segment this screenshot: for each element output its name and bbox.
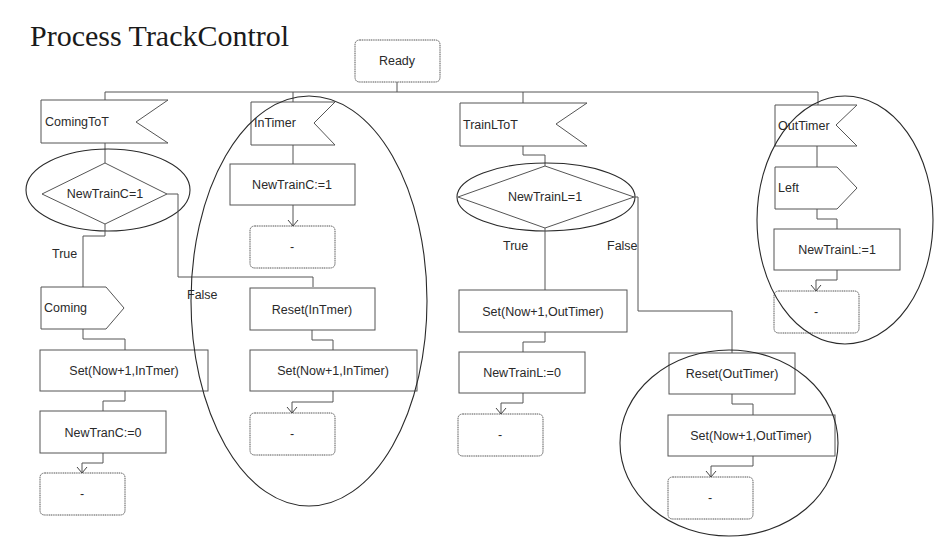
true-label-c: True <box>52 247 77 261</box>
transition-bus <box>105 82 818 105</box>
state-next-l-true-label: - <box>498 428 502 442</box>
connector <box>732 394 753 415</box>
state-next-outtimer[interactable]: - <box>774 291 859 333</box>
task-newtranc-0[interactable]: NewTranC:=0 <box>40 411 166 453</box>
input-intimer-label: InTimer <box>254 116 296 130</box>
task-reset-intmer[interactable]: Reset(InTmer) <box>250 288 375 330</box>
decision-newtrainl-label: NewTrainL=1 <box>508 190 582 204</box>
state-next-reset-in-label: - <box>290 427 294 441</box>
task-newtrainl-0[interactable]: NewTrainL:=0 <box>459 352 585 393</box>
decision-newtrainc-label: NewTrainC=1 <box>67 187 143 201</box>
input-comingtot-label: ComingToT <box>45 115 109 129</box>
task-set-intimer-label: Set(Now+1,InTimer) <box>277 364 389 378</box>
state-next-l-false-label: - <box>708 491 712 505</box>
task-newtranc-0-label: NewTranC:=0 <box>65 426 142 440</box>
process-title: Process TrackControl <box>30 19 289 52</box>
false-label-l: False <box>607 239 638 253</box>
state-ready[interactable]: Ready <box>355 40 440 82</box>
input-intimer[interactable]: InTimer <box>251 102 335 145</box>
output-coming[interactable]: Coming <box>41 287 124 329</box>
state-next-outtimer-label: - <box>814 305 818 319</box>
task-reset-outtimer-label: Reset(OutTimer) <box>686 367 779 381</box>
task-newtrainl-1[interactable]: NewTrainL:=1 <box>774 229 900 270</box>
state-next-l-true[interactable]: - <box>458 414 543 456</box>
output-left[interactable]: Left <box>775 167 857 209</box>
task-newtrainl-0-label: NewTrainL:=0 <box>483 366 561 380</box>
input-comingtot[interactable]: ComingToT <box>41 100 168 143</box>
connector <box>817 209 837 229</box>
state-next-l-false[interactable]: - <box>668 477 753 519</box>
connector-true <box>83 224 105 287</box>
input-trainltot-label: TrainLToT <box>463 118 518 132</box>
state-ready-label: Ready <box>379 54 416 68</box>
output-left-label: Left <box>778 181 799 195</box>
task-reset-intmer-label: Reset(InTmer) <box>272 303 353 317</box>
state-next-intimer[interactable]: - <box>250 226 335 268</box>
state-next-c[interactable]: - <box>40 473 125 515</box>
connector <box>103 391 125 411</box>
task-set-outtimer-true[interactable]: Set(Now+1,OutTimer) <box>459 290 627 332</box>
input-trainltot[interactable]: TrainLToT <box>460 103 587 146</box>
task-set-intimer[interactable]: Set(Now+1,InTimer) <box>250 350 417 391</box>
connector <box>711 456 753 477</box>
decision-newtrainl[interactable]: NewTrainL=1 <box>458 166 634 228</box>
connector <box>501 393 523 414</box>
input-outtimer-label: OutTimer <box>778 119 830 133</box>
true-label-l: True <box>503 239 528 253</box>
connector <box>312 330 333 350</box>
task-newtrainc-1[interactable]: NewTrainC:=1 <box>230 164 355 205</box>
sdl-process-diagram: Process TrackControl Ready ComingToT New… <box>0 0 938 557</box>
connector <box>292 391 333 413</box>
output-coming-label: Coming <box>44 301 87 315</box>
connector-false-l <box>634 197 732 353</box>
state-next-intimer-label: - <box>290 240 294 254</box>
task-set-outtimer-false[interactable]: Set(Now+1,OutTimer) <box>668 415 835 456</box>
task-set-outtimer-true-label: Set(Now+1,OutTimer) <box>482 305 603 319</box>
state-next-c-label: - <box>80 487 84 501</box>
state-next-reset-in[interactable]: - <box>250 413 335 455</box>
task-set-intmer[interactable]: Set(Now+1,InTmer) <box>40 350 208 391</box>
decision-newtrainc[interactable]: NewTrainC=1 <box>42 163 167 224</box>
connector <box>83 329 125 350</box>
connector <box>523 332 545 352</box>
task-newtrainc-1-label: NewTrainC:=1 <box>252 178 332 192</box>
task-newtrainl-1-label: NewTrainL:=1 <box>798 243 876 257</box>
task-set-outtimer-false-label: Set(Now+1,OutTimer) <box>690 429 811 443</box>
task-set-intmer-label: Set(Now+1,InTmer) <box>69 364 178 378</box>
